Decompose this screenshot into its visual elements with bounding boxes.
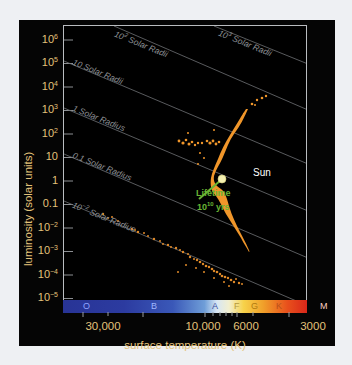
spectral-class-B: B [151, 301, 157, 312]
y-tick-label: 0.1 [43, 197, 58, 209]
spectral-class-G: G [251, 301, 258, 312]
sun-marker [218, 175, 226, 183]
lifetime-line2: 1010 yrs [196, 199, 231, 213]
spectral-class-F: F [234, 301, 240, 312]
x-ticks [63, 312, 307, 318]
spectral-class-M: M [320, 301, 328, 312]
y-tick-label: 103 [42, 103, 58, 115]
horizontal-branch-points [178, 129, 221, 165]
spectral-class-O: O [83, 301, 90, 312]
y-tick-label: 10 [46, 150, 58, 162]
y-tick-label: 10−2 [38, 221, 58, 233]
x-tick-label: 30,000 [85, 320, 120, 332]
x-tick-label: 6000 [233, 320, 259, 332]
spectral-class-K: K [276, 301, 282, 312]
y-tick-label: 105 [42, 56, 58, 68]
y-tick-label: 10−3 [38, 244, 58, 256]
sun-label: Sun [253, 167, 271, 178]
y-tick-label: 102 [42, 127, 58, 139]
y-tick-label: 10−5 [38, 291, 58, 303]
x-tick-label: 3000 [300, 320, 326, 332]
y-tick-label: 104 [42, 80, 58, 92]
y-tick-label: 1 [52, 174, 58, 186]
y-ticks [64, 40, 73, 299]
lifetime-label: Lifetime 1010 yrs [196, 188, 231, 213]
x-axis-title: surface temperature (K) [124, 339, 245, 351]
spectral-class-A: A [212, 301, 218, 312]
y-tick-label: 106 [42, 33, 58, 45]
y-tick-label: 10−4 [38, 268, 58, 280]
x-tick-label: 10,000 [185, 320, 220, 332]
lifetime-line1: Lifetime [196, 188, 231, 199]
